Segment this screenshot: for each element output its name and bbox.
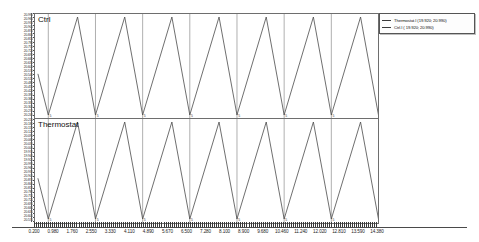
legend-label: Thermostat.I (19.920; 20.990) xyxy=(394,18,447,23)
x-axis-tick-label: 2.550 xyxy=(86,229,97,234)
panel-thermostat-label: Thermostat xyxy=(38,120,78,129)
legend-item-ctrl[interactable]: Ctrl.I ( 19.920; 20.990) xyxy=(382,24,472,30)
inplot-tick-label: 5 xyxy=(285,114,287,118)
x-axis-tick-label: 4.890 xyxy=(143,229,154,234)
x-axis-tick-label: 0.200 xyxy=(29,229,40,234)
plot-ctrl: 5555555 xyxy=(35,14,378,119)
panel-ctrl-label: Ctrl xyxy=(38,15,50,24)
y-axis-tick-labels: 20.99020.96020.93020.90020.87020.84020.8… xyxy=(12,13,33,222)
x-axis-tick-label: 0.980 xyxy=(48,229,59,234)
legend[interactable]: Thermostat.I (19.920; 20.990) Ctrl.I ( 1… xyxy=(379,13,475,34)
inplot-tick-label: 5 xyxy=(333,114,335,118)
x-axis-tick-label: 1.760 xyxy=(67,229,78,234)
x-axis-tick-label: 13.590 xyxy=(351,229,364,234)
series-line xyxy=(38,122,378,219)
x-axis-tick-label: 4.110 xyxy=(124,229,135,234)
legend-line-icon xyxy=(382,27,391,28)
series-line xyxy=(38,17,378,115)
inplot-tick-label: 5 xyxy=(238,114,240,118)
plot-thermostat: 5555555 xyxy=(35,119,378,223)
y-axis-line xyxy=(31,13,32,222)
x-axis-tick-label: 11.240 xyxy=(294,229,307,234)
x-axis-tick-label: 6.500 xyxy=(181,229,192,234)
x-axis-tick-label: 12.020 xyxy=(313,229,326,234)
legend-label: Ctrl.I ( 19.920; 20.990) xyxy=(394,25,434,30)
inplot-tick-label: 5 xyxy=(238,218,240,222)
x-axis-tick-label: 14.380 xyxy=(370,229,383,234)
inplot-tick-label: 5 xyxy=(333,218,335,222)
inplot-tick-label: 5 xyxy=(97,218,99,222)
inplot-tick-label: 5 xyxy=(144,218,146,222)
x-axis-tick-label: 8.100 xyxy=(219,229,230,234)
legend-item-thermostat[interactable]: Thermostat.I (19.920; 20.990) xyxy=(382,17,472,23)
x-axis-tick-label: 10.460 xyxy=(275,229,288,234)
inplot-tick-label: 5 xyxy=(97,114,99,118)
chart-root: 20.99020.96020.93020.90020.87020.84020.8… xyxy=(0,0,479,242)
x-axis-line xyxy=(12,227,467,228)
x-axis-tick-label: 8.900 xyxy=(238,229,249,234)
inplot-tick-label: 5 xyxy=(50,218,52,222)
x-axis-tick-label: 5.670 xyxy=(162,229,173,234)
x-axis-tick-label: 7.280 xyxy=(200,229,211,234)
x-axis-tick-label: 9.680 xyxy=(257,229,268,234)
inplot-tick-label: 5 xyxy=(191,218,193,222)
x-axis-tick-label: 3.330 xyxy=(105,229,116,234)
x-axis-tick-labels: 0.2000.9801.7602.5503.3304.1104.8905.670… xyxy=(0,229,479,239)
inplot-tick-label: 5 xyxy=(50,114,52,118)
legend-line-icon xyxy=(382,20,391,21)
x-axis-tick-label: 12.810 xyxy=(332,229,345,234)
panel-thermostat[interactable]: Thermostat 5555555 xyxy=(34,118,379,224)
panel-ctrl[interactable]: Ctrl 5555555 xyxy=(34,13,379,120)
inplot-tick-label: 5 xyxy=(285,218,287,222)
inplot-tick-label: 5 xyxy=(191,114,193,118)
inplot-tick-label: 5 xyxy=(144,114,146,118)
